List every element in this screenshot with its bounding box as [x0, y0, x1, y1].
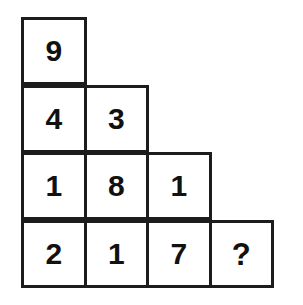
puzzle-row: 2 1 7 ? [21, 220, 271, 285]
puzzle-row: 4 3 [21, 85, 146, 150]
puzzle-cell[interactable]: 7 [146, 220, 212, 288]
puzzle-row: 9 [21, 17, 84, 82]
puzzle-row: 1 8 1 [21, 152, 209, 217]
puzzle-cell[interactable]: 3 [84, 85, 150, 153]
puzzle-cell[interactable]: 1 [146, 152, 212, 220]
puzzle-cell[interactable]: 8 [84, 152, 150, 220]
puzzle-cell-unknown[interactable]: ? [209, 220, 275, 288]
puzzle-cell[interactable]: 1 [84, 220, 150, 288]
puzzle-cell[interactable]: 4 [21, 85, 87, 153]
puzzle-cell[interactable]: 1 [21, 152, 87, 220]
puzzle-cell[interactable]: 2 [21, 220, 87, 288]
number-puzzle-grid: 9 4 3 1 8 1 2 1 7 ? [0, 0, 303, 305]
puzzle-cell[interactable]: 9 [21, 17, 87, 85]
